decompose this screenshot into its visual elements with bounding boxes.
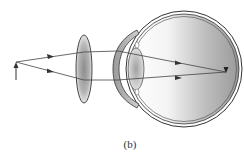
eye-lens-diagram (0, 0, 244, 156)
sclera-inner-outline (129, 14, 239, 124)
arrowhead-icon (47, 69, 54, 74)
ciliary-top (135, 42, 139, 48)
corrective-lens (76, 35, 92, 103)
figure-caption: (b) (0, 138, 244, 150)
arrowhead-icon (47, 54, 54, 59)
object-arrow (14, 62, 19, 80)
ciliary-bottom (135, 89, 139, 95)
